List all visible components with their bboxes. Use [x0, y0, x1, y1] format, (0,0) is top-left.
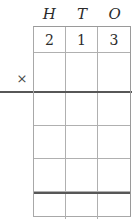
cell-hundreds[interactable]	[34, 194, 66, 219]
column-header-ones-label: O	[108, 7, 121, 22]
cell-ones[interactable]	[98, 159, 130, 191]
cell-value: 1	[77, 33, 86, 47]
cell-tens[interactable]	[66, 126, 98, 158]
cell-value: 3	[110, 33, 119, 47]
cell-tens[interactable]	[66, 159, 98, 191]
calculation-grid: 2 1 3	[33, 26, 131, 217]
cell-ones[interactable]: 3	[98, 27, 130, 52]
column-header-ones: O	[98, 3, 131, 25]
multiplication-sign-icon: ×	[14, 70, 30, 86]
table-row	[34, 93, 130, 126]
table-row: 2 1 3	[34, 27, 130, 53]
cell-ones[interactable]	[98, 194, 130, 219]
cell-hundreds[interactable]	[34, 93, 66, 125]
multiplication-worksheet: H T O × 2 1 3	[0, 0, 137, 219]
column-header-hundreds-label: H	[43, 7, 56, 22]
cell-tens[interactable]	[66, 53, 98, 91]
cell-ones[interactable]	[98, 126, 130, 158]
table-row	[34, 53, 130, 93]
cell-tens[interactable]	[66, 93, 98, 125]
multiplication-sign-glyph: ×	[17, 72, 28, 85]
column-header-tens: T	[66, 3, 99, 25]
table-row	[34, 159, 130, 192]
cell-tens[interactable]	[66, 194, 98, 219]
column-header-tens-label: T	[77, 7, 87, 22]
cell-hundreds[interactable]	[34, 53, 66, 91]
cell-hundreds[interactable]: 2	[34, 27, 66, 52]
cell-hundreds[interactable]	[34, 126, 66, 158]
table-row	[34, 126, 130, 159]
cell-ones[interactable]	[98, 53, 130, 91]
cell-value: 2	[45, 33, 54, 47]
cell-hundreds[interactable]	[34, 159, 66, 191]
cell-ones[interactable]	[98, 93, 130, 125]
column-header-row: H T O	[33, 3, 131, 25]
table-row	[34, 192, 130, 219]
cell-tens[interactable]: 1	[66, 27, 98, 52]
column-header-hundreds: H	[33, 3, 66, 25]
